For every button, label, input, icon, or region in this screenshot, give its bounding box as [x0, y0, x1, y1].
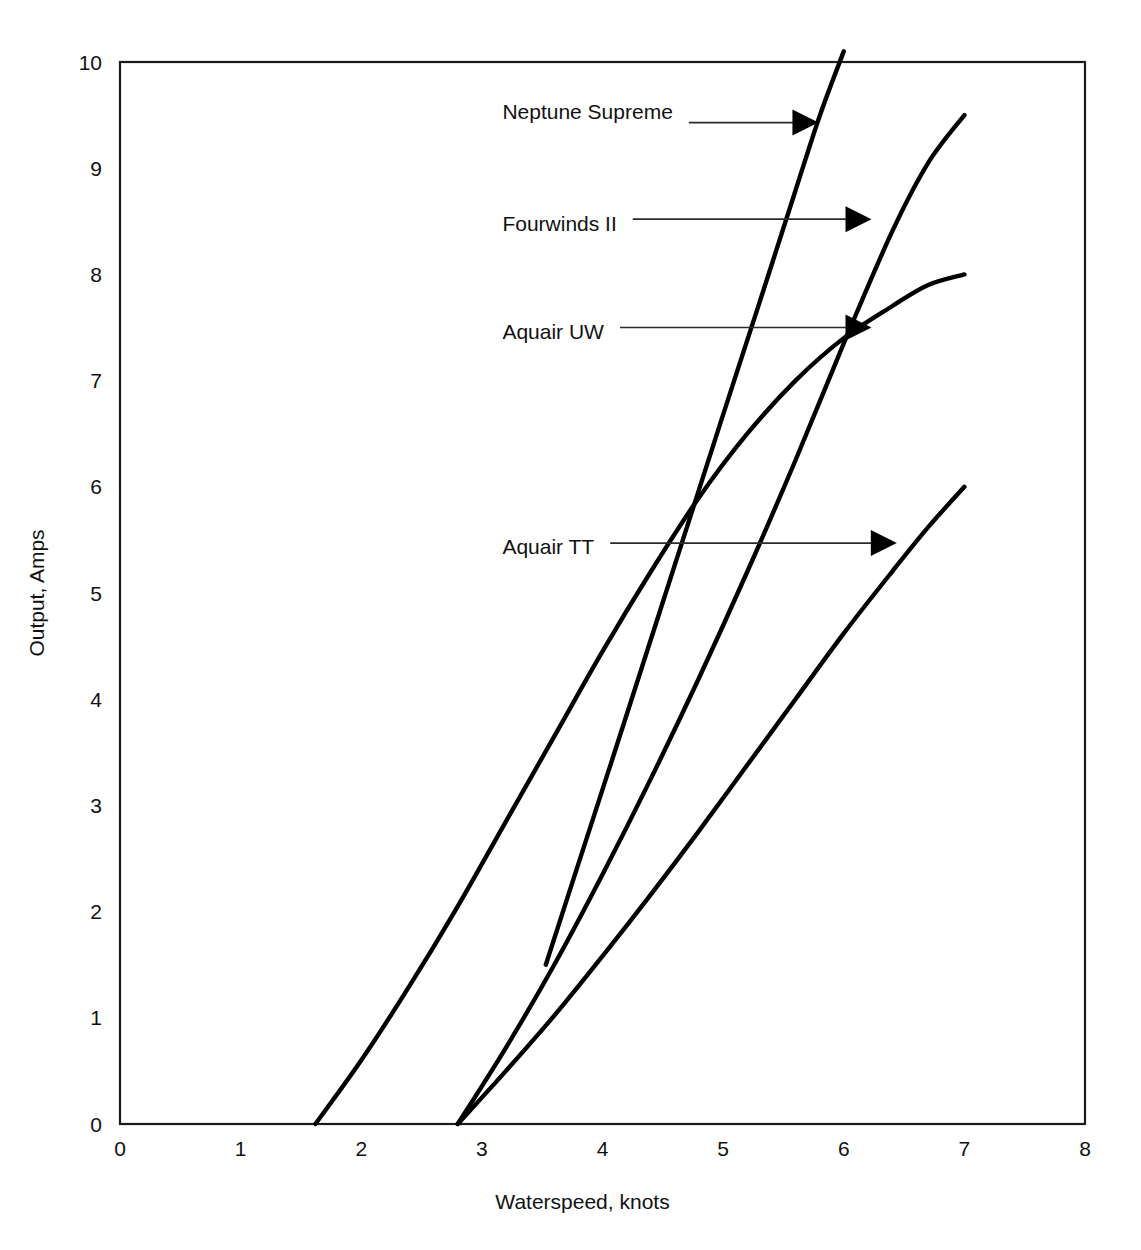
curve-neptune-supreme: [546, 51, 844, 964]
curve-aquair-uw: [315, 274, 964, 1124]
x-tick-label-6: 6: [838, 1137, 850, 1160]
y-tick-label-4: 4: [90, 688, 102, 711]
y-tick-label-9: 9: [90, 157, 102, 180]
y-axis-tick-labels: 012345678910: [79, 51, 103, 1136]
x-axis-tick-labels: 012345678: [114, 1137, 1091, 1160]
arrow-head-icon-aquair-tt: [871, 530, 897, 556]
x-tick-label-5: 5: [717, 1137, 729, 1160]
x-tick-label-0: 0: [114, 1137, 126, 1160]
x-axis-title: Waterspeed, knots: [495, 1190, 669, 1213]
x-tick-label-7: 7: [959, 1137, 971, 1160]
x-tick-label-8: 8: [1079, 1137, 1091, 1160]
curve-fourwinds-ii: [458, 115, 965, 1124]
x-tick-label-1: 1: [235, 1137, 247, 1160]
chart-page: 012345678910 012345678 Neptune SupremeFo…: [0, 0, 1141, 1250]
y-tick-label-1: 1: [90, 1006, 102, 1029]
y-tick-label-7: 7: [90, 369, 102, 392]
y-tick-label-6: 6: [90, 475, 102, 498]
curve-aquair-tt: [458, 487, 965, 1124]
y-axis-title: Output, Amps: [25, 529, 48, 656]
x-tick-label-3: 3: [476, 1137, 488, 1160]
data-series-curves: [315, 51, 964, 1124]
arrow-head-icon-aquair-uw: [845, 315, 871, 341]
y-tick-label-0: 0: [90, 1113, 102, 1136]
series-label-fourwinds-ii: Fourwinds II: [502, 212, 616, 235]
y-tick-label-8: 8: [90, 263, 102, 286]
arrow-head-icon-fourwinds-ii: [845, 206, 871, 232]
y-tick-label-2: 2: [90, 900, 102, 923]
series-label-neptune-supreme: Neptune Supreme: [502, 100, 672, 123]
series-label-aquair-tt: Aquair TT: [502, 535, 594, 558]
y-tick-label-5: 5: [90, 582, 102, 605]
x-tick-label-4: 4: [597, 1137, 609, 1160]
x-tick-label-2: 2: [355, 1137, 367, 1160]
y-tick-label-3: 3: [90, 794, 102, 817]
series-label-aquair-uw: Aquair UW: [502, 320, 604, 343]
y-tick-label-10: 10: [79, 51, 102, 74]
line-chart: 012345678910 012345678 Neptune SupremeFo…: [0, 0, 1141, 1250]
